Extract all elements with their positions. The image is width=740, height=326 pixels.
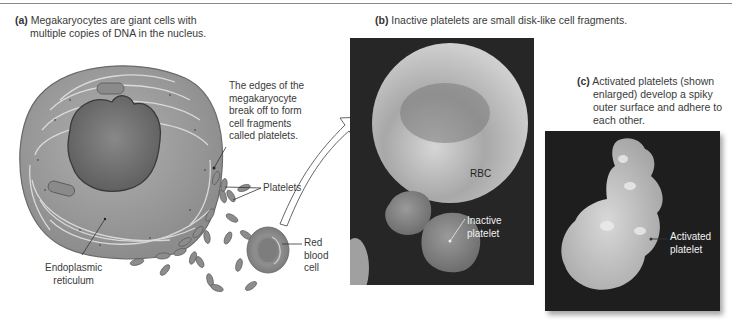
nucleus (68, 96, 160, 192)
platelets-label: Platelets (263, 182, 301, 195)
er-label: Endoplasmic reticulum (45, 262, 102, 287)
panel-b-letter: (b) (375, 14, 388, 26)
red-blood-cell (247, 227, 289, 273)
edges-annotation: The edges of the megakaryocyte break off… (229, 80, 304, 143)
panel-c-sem-image: Activated platelet (545, 131, 720, 311)
panel-b-caption: (b) Inactive platelets are small disk-li… (375, 14, 627, 27)
rbc-sem-label: RBC (470, 168, 491, 181)
inactive-platelet-label: Inactive platelet (467, 215, 501, 240)
activated-platelet-label: Activated platelet (670, 231, 711, 256)
panel-b-caption-text: Inactive platelets are small disk-like c… (391, 14, 627, 26)
inactive-platelets-micrograph (350, 38, 534, 285)
panel-c-caption: (c) Activated platelets (shown enlarged)… (577, 75, 722, 127)
panel-b-sem-image: RBC Inactive platelet (350, 38, 534, 285)
activated-platelets-micrograph (545, 131, 720, 311)
rbc-label: Red blood cell (304, 237, 328, 275)
platelets-leader-line-1 (225, 187, 261, 188)
panel-c-letter: (c) (577, 75, 590, 87)
